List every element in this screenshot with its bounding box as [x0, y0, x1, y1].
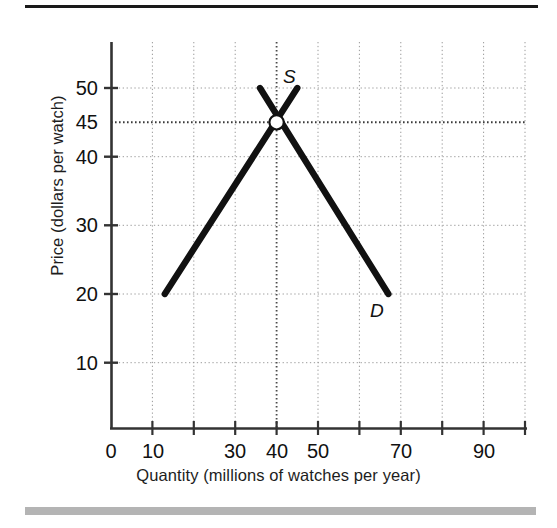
horizontal-gridlines	[111, 88, 525, 363]
x-tick-label-70: 70	[381, 440, 421, 463]
x-tick-label-0: 0	[91, 440, 131, 463]
x-tick-label-90: 90	[464, 440, 504, 463]
equilibrium-point-marker	[269, 115, 283, 129]
supply-demand-figure: 50 45 40 30 20 10 0 10 30 40 50 70 90 S …	[0, 0, 557, 528]
y-tick-label-10: 10	[52, 352, 98, 375]
x-axis-title: Quantity (millions of watches per year)	[0, 466, 557, 485]
demand-curve-label: D	[370, 300, 384, 322]
supply-curve-label: S	[283, 66, 296, 88]
x-tick-label-50: 50	[298, 440, 338, 463]
x-tick-label-10: 10	[133, 440, 173, 463]
y-axis-title: Price (dollars per watch)	[48, 41, 67, 331]
x-tick-label-30: 30	[215, 440, 255, 463]
bottom-divider-rule	[25, 507, 536, 515]
x-tick-label-40: 40	[257, 440, 297, 463]
vertical-gridlines	[152, 42, 525, 428]
